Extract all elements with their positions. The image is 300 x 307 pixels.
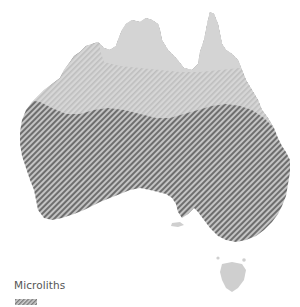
legend-hatch-swatch	[15, 299, 37, 305]
island	[242, 258, 246, 262]
kangaroo-island	[171, 222, 184, 227]
tasmania	[220, 262, 246, 292]
northern-zone	[100, 0, 300, 72]
island	[216, 256, 219, 259]
australia-map	[0, 0, 300, 300]
mainland	[0, 0, 300, 300]
legend: Microliths	[14, 279, 65, 292]
map	[0, 0, 300, 300]
legend-title: Microliths	[14, 279, 65, 292]
